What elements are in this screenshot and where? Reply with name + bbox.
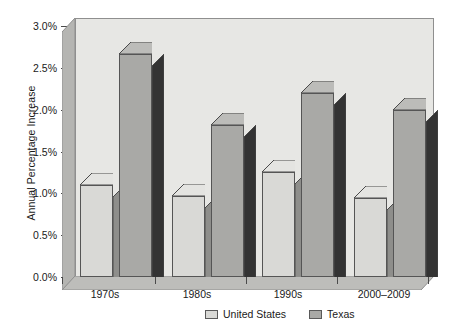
x-tick-mark [246,277,247,284]
legend-item-tx: Texas [309,308,354,320]
legend-swatch-icon [205,310,218,319]
chart-legend: United StatesTexas [205,308,354,320]
x-tick-mark [155,277,156,284]
x-axis: 1970s1980s1990s2000–2009 [0,0,452,332]
x-category-label: 1970s [62,288,148,300]
x-tick-mark [428,277,429,284]
bar-chart: Annual Percentage Increase 0.0%0.5%1.0%1… [0,0,452,332]
x-category-label: 1990s [245,288,331,300]
x-tick-mark [337,277,338,284]
legend-label: United States [223,308,286,320]
x-category-label: 2000–2009 [341,288,427,300]
x-tick-mark [62,277,63,284]
x-category-label: 1980s [154,288,240,300]
legend-label: Texas [327,308,354,320]
legend-swatch-icon [309,310,322,319]
legend-item-us: United States [205,308,286,320]
